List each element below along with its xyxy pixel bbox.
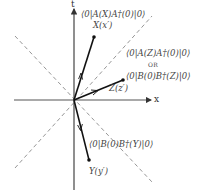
x-axis-label: x bbox=[154, 95, 159, 104]
point-y bbox=[87, 158, 91, 162]
vector-y bbox=[74, 100, 89, 160]
z-correlator-a-label: ⟨0|A(Z)A†(0)|0⟩ bbox=[126, 49, 190, 58]
point-z-label: Z(z′) bbox=[109, 84, 128, 93]
y-correlator-label: ⟨0|B(0)B†(Y)|0⟩ bbox=[89, 140, 153, 149]
point-x-label: X(x′) bbox=[93, 21, 112, 30]
z-correlator-b-label: ⟨0|B(0)B†(Z)|0⟩ bbox=[126, 72, 191, 81]
point-z bbox=[121, 78, 125, 82]
point-x bbox=[92, 35, 96, 39]
or-label: OR bbox=[148, 62, 158, 68]
x-correlator-label: ⟨0|A(X)A†(0)|0⟩ bbox=[81, 10, 145, 19]
t-axis-label: t bbox=[71, 0, 75, 9]
spacetime-diagram: t x ⟨0|A(X)A†(0)|0⟩ X(x′) ⟨0|A(Z)A†(0)|0… bbox=[0, 0, 200, 193]
vector-x bbox=[74, 37, 94, 100]
point-y-label: Y(y′) bbox=[89, 167, 108, 176]
